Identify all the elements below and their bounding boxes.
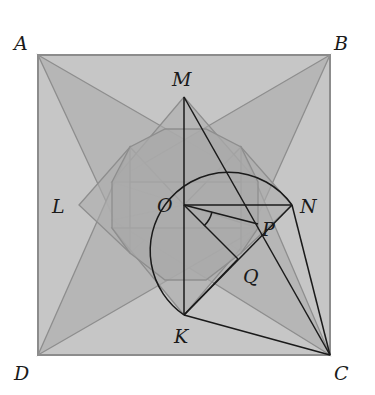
label-n: N: [299, 195, 318, 217]
label-l: L: [51, 195, 65, 217]
geometry-diagram: A B C D M O N K L P Q: [0, 0, 375, 395]
label-b: B: [333, 32, 348, 54]
label-a: A: [12, 32, 28, 54]
label-m: M: [171, 68, 192, 90]
label-d: D: [13, 362, 29, 384]
label-c: C: [334, 362, 349, 384]
label-p: P: [261, 218, 276, 240]
label-q: Q: [243, 265, 259, 287]
label-o: O: [157, 194, 173, 216]
label-k: K: [173, 325, 190, 347]
